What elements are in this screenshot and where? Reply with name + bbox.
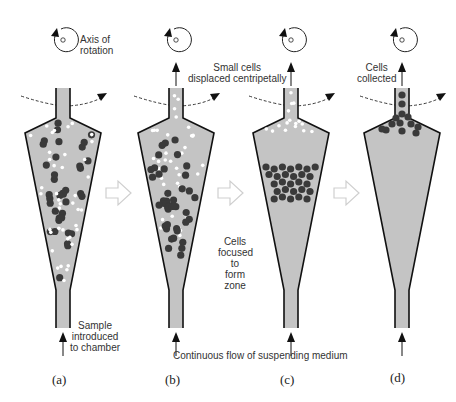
small-cell (173, 107, 177, 111)
small-cell (62, 279, 66, 283)
large-cell (271, 165, 278, 172)
large-cell (149, 174, 156, 181)
small-cell (284, 128, 288, 132)
small-cell (50, 249, 54, 253)
transition-arrow-bc (218, 181, 243, 205)
caption-b: (b) (165, 372, 180, 388)
small-cell (40, 186, 44, 190)
large-cell (290, 173, 297, 180)
large-cell (186, 187, 193, 194)
small-cell (151, 129, 155, 133)
arrow-head-icon (436, 93, 446, 101)
small-cell (174, 115, 178, 119)
large-cell (396, 119, 403, 126)
small-cell (55, 192, 59, 196)
small-cell (48, 158, 52, 162)
label-line: to chamber (70, 342, 120, 353)
arrow-head-icon (97, 93, 107, 101)
panel-a (21, 28, 107, 356)
label-line: collected (357, 73, 396, 84)
cells-focused-label: Cells focused to form zone (218, 236, 252, 291)
large-cell (40, 141, 47, 148)
large-cell (287, 195, 294, 202)
large-cell (388, 120, 395, 127)
large-cell (62, 198, 69, 205)
arrow-head-icon (210, 93, 220, 101)
label-line: zone (218, 280, 252, 291)
rotation-icon (51, 28, 78, 52)
large-cell (164, 190, 171, 197)
small-cell (176, 181, 180, 185)
large-cell (54, 120, 61, 127)
large-cell (287, 180, 294, 187)
label-line: Sample (70, 320, 120, 331)
large-cell (76, 162, 83, 169)
small-cell (302, 129, 306, 133)
label-line: Cells (218, 236, 252, 247)
label-line: Cells (357, 62, 396, 73)
large-cell (191, 194, 198, 201)
small-cell (285, 121, 289, 125)
small-cell (196, 172, 200, 176)
small-cell (45, 124, 49, 128)
large-cell (161, 165, 168, 172)
small-cell (83, 158, 87, 162)
large-cell (173, 225, 180, 232)
large-cell (271, 180, 278, 187)
large-cell (165, 245, 172, 252)
caption-c: (c) (280, 372, 294, 388)
small-cell (56, 266, 60, 270)
large-cell (179, 185, 186, 192)
small-cell (157, 160, 161, 164)
chamber (25, 88, 101, 328)
continuous-flow-label: Continuous flow of suspending medium (173, 350, 348, 361)
small-cell (90, 133, 94, 137)
large-cell (170, 196, 177, 203)
rotation-icon (164, 28, 191, 52)
sample-introduced-label: Sample introduced to chamber (70, 320, 120, 353)
small-cell (80, 208, 84, 212)
large-cell (412, 129, 419, 136)
label-line: rotation (80, 45, 113, 56)
large-cell (58, 214, 65, 221)
small-cell (310, 130, 314, 134)
large-cell (179, 239, 186, 246)
large-cell (52, 153, 59, 160)
cells-collected-label: Cells collected (357, 62, 396, 84)
large-cell (170, 203, 177, 210)
small-cell (289, 91, 293, 95)
small-cell (300, 122, 304, 126)
small-cell (57, 198, 61, 202)
small-cell (86, 175, 90, 179)
small-cell (71, 201, 75, 205)
large-cell (404, 113, 411, 120)
small-cell (63, 153, 67, 157)
caption-a: (a) (52, 372, 66, 388)
small-cells-displaced-label: Small cells displaced centripetally (188, 62, 286, 84)
small-cell (66, 264, 70, 268)
large-cell (155, 151, 162, 158)
arrow-head-icon (287, 332, 295, 342)
arrow-head-icon (325, 93, 335, 101)
large-cell (306, 173, 313, 180)
small-cell (177, 173, 181, 177)
large-cell (287, 165, 294, 172)
large-cell (398, 127, 405, 134)
small-cell (39, 192, 43, 196)
transition-arrow-cd (334, 181, 359, 205)
small-cell (166, 133, 170, 137)
small-cell (297, 119, 301, 123)
small-cell (70, 243, 74, 247)
large-cell (78, 193, 85, 200)
label-line: Axis of (80, 34, 113, 45)
large-cell (279, 178, 286, 185)
large-cell (290, 188, 297, 195)
large-cell (312, 163, 319, 170)
large-cell (55, 138, 62, 145)
small-cell (66, 125, 70, 129)
large-cell (398, 100, 405, 107)
large-cell (265, 171, 272, 178)
small-cell (170, 215, 174, 219)
large-cell (398, 91, 405, 98)
small-cell (287, 109, 291, 113)
